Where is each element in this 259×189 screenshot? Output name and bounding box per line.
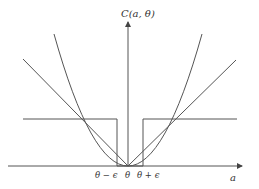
tick-theta-plus-eps: θ + ϵ bbox=[137, 170, 160, 180]
absolute-loss-curve bbox=[23, 59, 236, 166]
x-axis-label: a bbox=[230, 172, 236, 183]
zero-one-loss-right bbox=[143, 119, 237, 166]
loss-functions-diagram: C(a, θ) a θ − ϵ θ θ + ϵ bbox=[0, 0, 259, 189]
tick-theta: θ bbox=[125, 170, 130, 180]
tick-theta-minus-eps: θ − ϵ bbox=[95, 170, 118, 180]
y-axis-label: C(a, θ) bbox=[121, 8, 155, 19]
zero-one-loss-left bbox=[23, 119, 117, 166]
